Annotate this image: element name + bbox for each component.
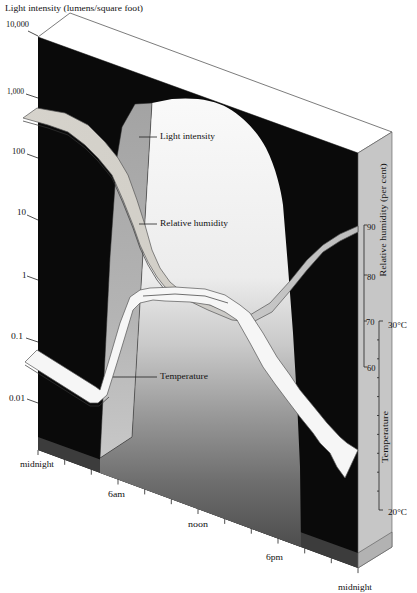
left-tick-leader-0-1 bbox=[26, 338, 38, 342]
left-tick-leader-1000 bbox=[26, 94, 38, 98]
left-tick-leader-100 bbox=[27, 154, 38, 158]
rh-tick-70: 70 bbox=[366, 317, 375, 327]
left-tick-0-1: 0.1 bbox=[11, 331, 23, 341]
left-tick-leader-10000 bbox=[28, 31, 38, 36]
daily-cycle-figure: Light intensity (lumens/square foot) 10,… bbox=[0, 0, 417, 593]
left-tick-0-01: 0.01 bbox=[9, 393, 25, 403]
temp-tick-30c: 30°C bbox=[388, 320, 407, 330]
left-tick-leader-1 bbox=[27, 276, 38, 280]
left-tick-100: 100 bbox=[12, 146, 25, 156]
chart-canvas: Light intensity (lumens/square foot) 10,… bbox=[0, 0, 417, 593]
left-tick-leader-10 bbox=[27, 215, 38, 220]
rh-axis-title: Relative humidity (per cent) bbox=[378, 163, 388, 276]
left-axis-title: Light intensity (lumens/square foot) bbox=[5, 3, 143, 13]
temp-tick-20c: 20°C bbox=[388, 507, 407, 517]
time-label-6am: 6am bbox=[108, 489, 125, 499]
left-tick-1: 1 bbox=[22, 270, 27, 280]
light-intensity-label: Light intensity bbox=[160, 131, 216, 141]
left-tick-1000: 1,000 bbox=[7, 86, 24, 96]
left-tick-10: 10 bbox=[17, 207, 27, 217]
time-label-midnight-end: midnight bbox=[338, 582, 373, 592]
temperature-label: Temperature bbox=[160, 371, 208, 381]
time-label-noon: noon bbox=[188, 519, 209, 529]
temperature-axis-title: Temperature bbox=[380, 411, 390, 463]
rh-tick-90: 90 bbox=[367, 222, 376, 232]
left-tick-10000: 10,000 bbox=[6, 19, 29, 29]
rh-tick-80: 80 bbox=[367, 272, 376, 282]
time-label-midnight-start: midnight bbox=[20, 459, 55, 469]
left-tick-leader-0-01 bbox=[27, 399, 38, 403]
time-label-6pm: 6pm bbox=[266, 552, 283, 562]
rh-tick-60: 60 bbox=[367, 363, 376, 373]
relative-humidity-label: Relative humidity bbox=[160, 218, 229, 228]
